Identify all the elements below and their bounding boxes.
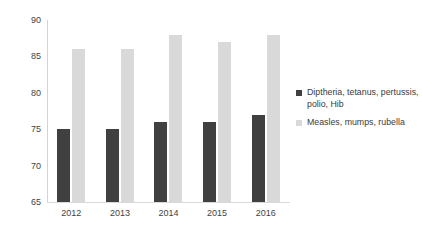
y-tick-label: 65 xyxy=(31,198,41,207)
chart-legend: Diptheria, tetanus, pertussis, polio, Hi… xyxy=(296,87,420,136)
y-tick-label: 70 xyxy=(31,161,41,170)
bar xyxy=(106,129,119,202)
bar xyxy=(154,122,167,202)
legend-item[interactable]: Diptheria, tetanus, pertussis, polio, Hi… xyxy=(296,87,420,110)
bar-group: 2016 xyxy=(241,20,290,202)
x-tick-label: 2016 xyxy=(256,209,276,218)
plot-area: 657075808590 20122013201420152016 xyxy=(47,20,290,202)
y-tick-label: 75 xyxy=(31,125,41,134)
legend-item[interactable]: Measles, mumps, rubella xyxy=(296,117,420,129)
bar-group: 2013 xyxy=(96,20,145,202)
bar xyxy=(169,35,182,202)
legend-swatch-icon xyxy=(296,120,302,126)
bar-group: 2014 xyxy=(144,20,193,202)
chart-title-clipped xyxy=(0,0,423,3)
bar xyxy=(218,42,231,202)
y-tick-label: 80 xyxy=(31,88,41,97)
bar xyxy=(252,115,265,202)
legend-label: Diptheria, tetanus, pertussis, polio, Hi… xyxy=(307,87,420,110)
y-tick-label: 90 xyxy=(31,16,41,25)
legend-swatch-icon xyxy=(296,90,302,96)
bar xyxy=(203,122,216,202)
x-tick-label: 2013 xyxy=(110,209,130,218)
vaccination-bar-chart: Percentage (%) vaccinated 657075808590 2… xyxy=(0,0,423,233)
bar xyxy=(267,35,280,202)
bar xyxy=(121,49,134,202)
x-tick-label: 2014 xyxy=(158,209,178,218)
legend-label: Measles, mumps, rubella xyxy=(307,117,405,129)
x-axis-line xyxy=(47,202,290,203)
bar-groups: 20122013201420152016 xyxy=(47,20,290,202)
x-tick-label: 2012 xyxy=(61,209,81,218)
bar xyxy=(57,129,70,202)
bar-group: 2015 xyxy=(193,20,242,202)
y-tick-label: 85 xyxy=(31,52,41,61)
x-tick-label: 2015 xyxy=(207,209,227,218)
bar xyxy=(72,49,85,202)
bar-group: 2012 xyxy=(47,20,96,202)
